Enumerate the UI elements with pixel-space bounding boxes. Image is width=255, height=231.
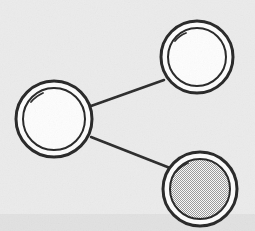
node-bottom-right[interactable] <box>163 152 237 226</box>
node-left[interactable] <box>16 81 92 157</box>
node-top-right[interactable] <box>161 21 233 93</box>
figure-canvas <box>0 0 255 231</box>
node-top-right-inner-ring <box>168 28 226 86</box>
node-diagram <box>0 0 255 231</box>
node-left-inner-ring <box>23 88 85 150</box>
